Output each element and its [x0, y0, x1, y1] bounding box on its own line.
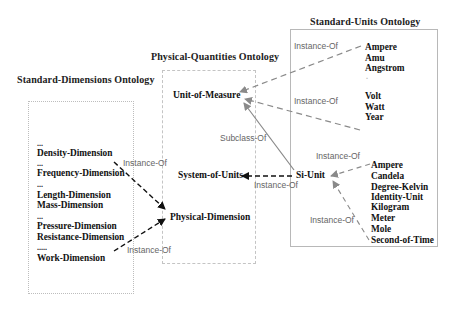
dimension-resistance: Resistance-Dimension: [37, 232, 124, 242]
relation-label-subclass-of: Subclass-Of: [220, 133, 266, 143]
si-unit-mole: Mole: [371, 224, 391, 234]
relation-label-instance-of-second-of-time: Instance-Of: [310, 215, 354, 225]
unit-volt: Volt: [365, 91, 381, 101]
dimension-ellipsis-2: ...: [37, 160, 43, 168]
relation-label-instance-of-top: Instance-Of: [294, 41, 338, 51]
ontology-diagram: Standard-Units Ontology Physical-Quantit…: [0, 0, 457, 309]
node-system-of-units: System-of-Units: [178, 170, 243, 181]
edge-ampere-group-to-unit-of-measure: [240, 46, 361, 92]
si-unit-meter: Meter: [371, 213, 395, 223]
dimension-pressure: Pressure-Dimension: [37, 221, 117, 231]
unit-year: Year: [365, 112, 384, 122]
dimension-ellipsis-5: .....: [37, 244, 47, 252]
relation-label-instance-of-density: Instance-Of: [123, 158, 167, 168]
edge-ampere-si-to-si-unit: [331, 164, 370, 176]
relation-label-instance-of-work: Instance-Of: [127, 245, 171, 255]
dimension-ellipsis-3: ...: [37, 181, 43, 189]
unit-amu: Amu: [365, 53, 385, 63]
unit-watt: Watt: [365, 102, 385, 112]
dimension-frequency: Frequency-Dimension: [37, 168, 125, 178]
dimension-ellipsis-1: ...: [37, 140, 43, 148]
si-unit-kilogram: Kilogram: [371, 202, 409, 212]
node-unit-of-measure: Unit-of-Measure: [173, 90, 240, 101]
edge-second-of-time-to-si-unit: [333, 181, 369, 240]
dimension-length: Length-Dimension: [37, 190, 111, 200]
node-si-unit: Si-Unit: [296, 170, 325, 181]
si-unit-ampere: Ampere: [371, 160, 403, 170]
si-unit-candela: Candela: [371, 171, 404, 181]
unit-angstrom: Angstrom: [365, 63, 405, 73]
dimension-density: Density-Dimension: [37, 148, 112, 158]
relation-label-instance-of-system-of-units: Instance-Of: [254, 180, 298, 190]
si-unit-degree-kelvin: Degree-Kelvin: [371, 182, 428, 192]
node-physical-dimension: Physical-Dimension: [170, 212, 250, 223]
dimension-mass: Mass-Dimension: [37, 200, 103, 210]
relation-label-instance-of-ampere-si: Instance-Of: [316, 151, 360, 161]
unit-ampere: Ampere: [365, 42, 397, 52]
dimension-ellipsis-4: ...: [37, 213, 43, 221]
si-unit-second-of-time: Second-of-Time: [371, 235, 434, 245]
si-unit-identity-unit: Identity-Unit: [371, 192, 423, 202]
relation-label-instance-of-middle: Instance-Of: [294, 96, 338, 106]
dimension-work: Work-Dimension: [37, 253, 105, 263]
unit-ellipsis: .: [366, 73, 368, 81]
